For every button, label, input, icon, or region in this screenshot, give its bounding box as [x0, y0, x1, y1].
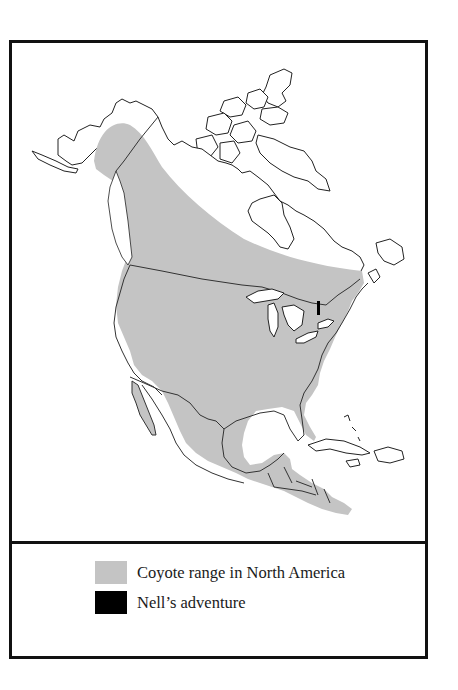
legend-label: Nell’s adventure — [137, 593, 246, 613]
map-frame: Coyote range in North America Nell’s adv… — [9, 40, 428, 659]
newfoundland — [376, 239, 404, 265]
map-panel — [12, 43, 425, 541]
baja-california — [132, 381, 156, 435]
caribbean-islands — [308, 415, 404, 467]
hispaniola — [374, 447, 404, 463]
legend-item-coyote-range: Coyote range in North America — [95, 561, 345, 584]
nells-adventure-marker — [317, 301, 320, 315]
bahamas — [344, 415, 360, 441]
gray-swatch-icon — [95, 561, 127, 584]
arctic-island — [230, 121, 256, 143]
legend: Coyote range in North America Nell’s adv… — [12, 544, 425, 656]
legend-item-nells-adventure: Nell’s adventure — [95, 591, 246, 614]
arctic-island — [260, 107, 288, 125]
jamaica — [346, 459, 360, 467]
legend-label: Coyote range in North America — [137, 563, 345, 583]
cuba — [308, 439, 370, 455]
cape-breton — [368, 269, 380, 283]
black-swatch-icon — [95, 591, 127, 614]
baffin-island — [256, 135, 330, 191]
arctic-island — [220, 141, 240, 163]
north-america-map — [12, 43, 425, 541]
